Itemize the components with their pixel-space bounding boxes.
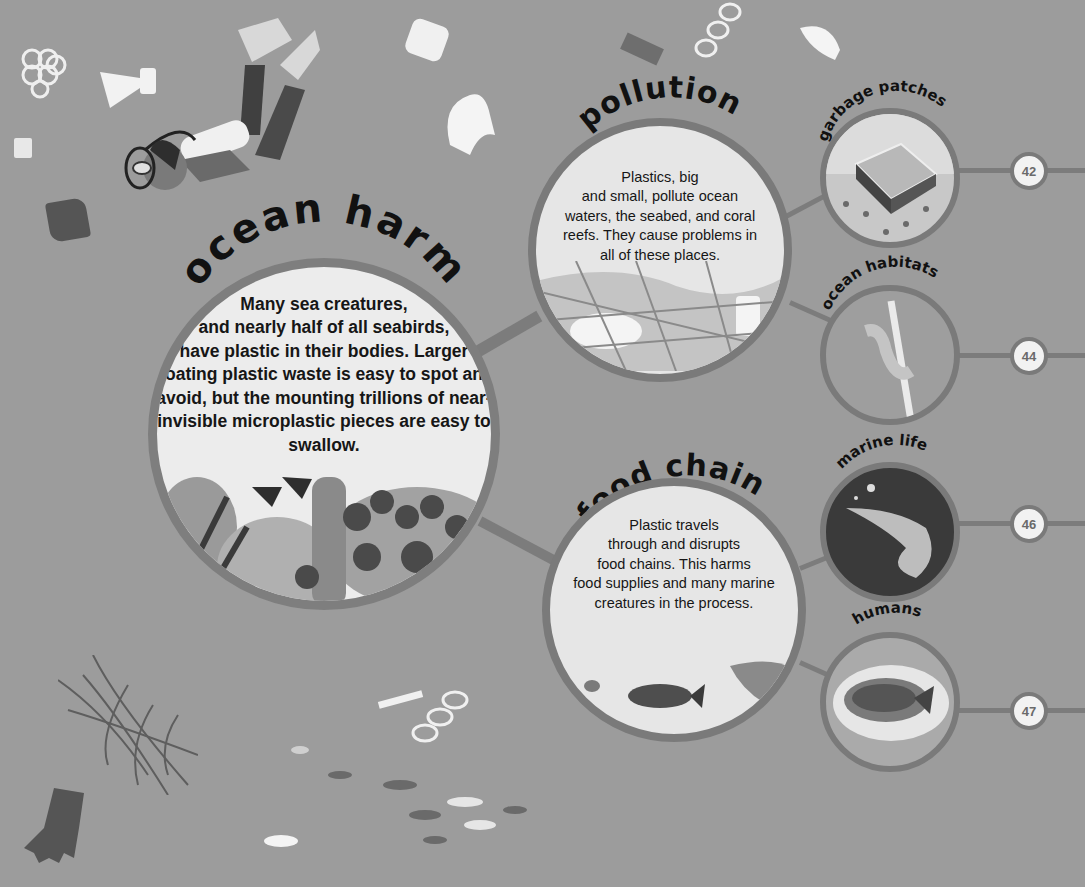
text-line: reefs. They cause problems in [556,226,764,245]
text-line: floating plastic waste is easy to spot a… [148,363,500,386]
food-chain-circle[interactable]: Plastic travels through and disrupts foo… [542,478,806,742]
food-chain-fish-illustration [550,646,800,726]
pollution-body-text: Plastics, big and small, pollute ocean w… [556,168,764,265]
text-line: have plastic in their bodies. Larger [148,340,500,363]
text-line: Plastic travels [570,516,778,535]
rubber-glove-icon [24,788,84,868]
text-line: food chains. This harms [570,555,778,574]
humans-title: humans [849,599,924,628]
text-line: Plastics, big [556,168,764,187]
ocean-habitats-circle[interactable] [820,285,960,425]
coral-reef-illustration [157,457,497,607]
chain-ring-icon [690,0,750,70]
text-line: and small, pollute ocean [556,187,764,206]
page-badge-47[interactable]: 47 [1010,692,1048,730]
svg-text:humans: humans [849,599,924,628]
garbage-patch-illustration [826,114,956,244]
marine-life-circle[interactable] [820,462,960,602]
jug-icon [403,17,451,64]
cup-icon [14,138,32,158]
text-line: creatures in the process. [570,594,778,613]
fishing-net-illustration [536,261,786,371]
text-line: through and disrupts [570,535,778,554]
humans-circle[interactable] [820,632,960,772]
seahorse-illustration [826,291,956,421]
shrimp-illustration [826,468,956,598]
funnel-bottle-icon [100,60,160,110]
page-badge-42[interactable]: 42 [1010,152,1048,190]
clip-icon [620,32,664,65]
six-pack-ring-icon [18,45,68,100]
fish-dish-illustration [826,638,956,768]
glove-icon [45,197,91,243]
garbage-patches-circle[interactable] [820,108,960,248]
foodchain-body-text: Plastic travels through and disrupts foo… [570,516,778,613]
text-line: Many sea creatures, [148,293,500,316]
pollution-circle[interactable]: Plastics, big and small, pollute ocean w… [528,118,792,382]
plastic-bag-icon [440,85,520,165]
ocean-harm-circle[interactable]: Many sea creatures, and nearly half of a… [148,258,500,610]
text-line: waters, the seabed, and coral [556,207,764,226]
fishing-net-icon [58,655,198,795]
bottle-cap-icon [264,835,298,847]
text-line: invisible microplastic pieces are easy t… [148,410,500,457]
page-badge-44[interactable]: 44 [1010,337,1048,375]
text-line: and nearly half of all seabirds, [148,316,500,339]
main-body-text: Many sea creatures, and nearly half of a… [148,293,500,457]
text-line: food supplies and many marine [570,574,778,593]
school-of-fish-icon [290,740,570,880]
page-badge-46[interactable]: 46 [1010,505,1048,543]
text-line: avoid, but the mounting trillions of nea… [148,387,500,410]
